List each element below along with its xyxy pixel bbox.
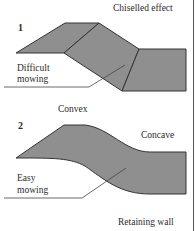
- mowing-label-1: mowing: [17, 74, 48, 85]
- difficult-label: Difficult: [17, 63, 50, 74]
- concave-label: Concave: [141, 130, 174, 141]
- diagram-canvas: [0, 0, 196, 231]
- easy-label: Easy: [17, 173, 35, 184]
- column-divider: [193, 0, 194, 231]
- mowing-label-2: mowing: [17, 185, 48, 196]
- panel-1-number: 1: [18, 22, 23, 33]
- convex-label: Convex: [58, 104, 88, 115]
- retaining-wall-label: Retaining wall: [118, 217, 174, 228]
- chiselled-effect-label: Chiselled effect: [113, 3, 173, 14]
- panel-2-number: 2: [18, 120, 23, 131]
